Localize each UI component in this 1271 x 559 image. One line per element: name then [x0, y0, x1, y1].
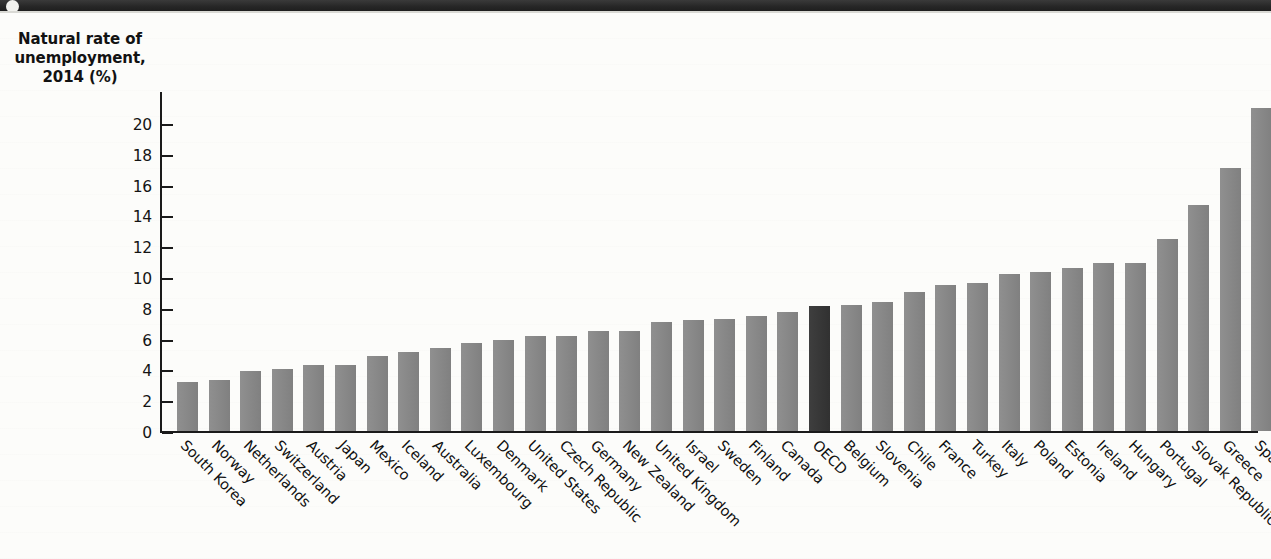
y-axis-tick-labels: 02468101214161820 [108, 100, 152, 433]
y-axis-title-line-2: unemployment, [4, 49, 156, 68]
bar-portugal[interactable] [1157, 239, 1178, 431]
bar-poland[interactable] [1030, 272, 1051, 431]
bar-slovenia[interactable] [872, 302, 893, 431]
bar-series [160, 100, 1258, 431]
y-axis-title: Natural rate of unemployment, 2014 (%) [4, 30, 156, 88]
y-axis-tick-label: 4 [142, 362, 152, 380]
bar-greece[interactable] [1220, 168, 1241, 431]
bar-australia[interactable] [430, 348, 451, 431]
figure-page: Natural rate of unemployment, 2014 (%) 0… [0, 0, 1271, 559]
bar-norway[interactable] [209, 380, 230, 431]
bar-slovak-republic[interactable] [1188, 205, 1209, 431]
bar-south-korea[interactable] [177, 382, 198, 431]
bar-iceland[interactable] [398, 352, 419, 431]
y-axis-tick-label: 6 [142, 332, 152, 350]
x-axis-category-labels: South KoreaNorwayNetherlandsSwitzerlandA… [160, 437, 1270, 559]
bar-japan[interactable] [335, 365, 356, 431]
bar-canada[interactable] [777, 312, 798, 431]
y-axis-title-line-3: 2014 (%) [4, 68, 156, 87]
bar-hungary[interactable] [1125, 263, 1146, 431]
bar-spain[interactable] [1251, 108, 1271, 431]
y-axis-title-line-1: Natural rate of [4, 30, 156, 49]
header-divider [0, 11, 1271, 13]
figure-header-band [0, 0, 1271, 11]
bar-italy[interactable] [999, 274, 1020, 431]
bar-chile[interactable] [904, 292, 925, 431]
bar-turkey[interactable] [967, 283, 988, 431]
bar-belgium[interactable] [841, 305, 862, 431]
bar-czech-republic[interactable] [556, 336, 577, 431]
bar-netherlands[interactable] [240, 371, 261, 431]
bar-new-zealand[interactable] [619, 331, 640, 431]
y-axis-tick-label: 18 [133, 147, 152, 165]
y-axis-tick [162, 432, 173, 434]
bar-united-states[interactable] [525, 336, 546, 431]
y-axis-tick-label: 14 [133, 208, 152, 226]
x-axis-line [160, 431, 1258, 433]
bar-estonia[interactable] [1062, 268, 1083, 431]
bar-mexico[interactable] [367, 356, 388, 431]
y-axis-tick-label: 20 [133, 116, 152, 134]
bar-france[interactable] [935, 285, 956, 431]
bar-israel[interactable] [683, 320, 704, 431]
bar-luxembourg[interactable] [461, 343, 482, 431]
bar-sweden[interactable] [714, 319, 735, 431]
y-axis-tick-label: 0 [142, 424, 152, 442]
plot-area: 02468101214161820 [160, 100, 1258, 433]
bar-united-kingdom[interactable] [651, 322, 672, 431]
header-band-fill [0, 0, 1271, 11]
bar-oecd[interactable] [809, 306, 830, 431]
y-axis-tick-label: 12 [133, 239, 152, 257]
y-axis-tick-label: 16 [133, 178, 152, 196]
bar-austria[interactable] [303, 365, 324, 431]
bar-germany[interactable] [588, 331, 609, 431]
bar-ireland[interactable] [1093, 263, 1114, 431]
bar-denmark[interactable] [493, 340, 514, 431]
y-axis-tick-label: 10 [133, 270, 152, 288]
y-axis-tick-label: 8 [142, 301, 152, 319]
bar-finland[interactable] [746, 316, 767, 431]
circle-bullet-icon [6, 0, 19, 11]
bar-switzerland[interactable] [272, 369, 293, 431]
y-axis-tick-label: 2 [142, 393, 152, 411]
